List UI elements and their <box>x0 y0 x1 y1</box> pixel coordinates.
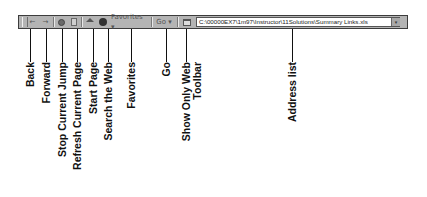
callout-favorites: Favorites <box>126 62 137 109</box>
back-button[interactable]: ← <box>28 17 37 27</box>
callout-back: Back <box>25 62 36 87</box>
callout-forward: Forward <box>41 62 52 103</box>
back-arrow-icon: ← <box>30 17 36 27</box>
address-input[interactable]: C:\00000EX7\1m97\Instructor\11Solutions\… <box>196 17 400 27</box>
leader-refresh <box>77 29 78 62</box>
leader-stop <box>62 29 63 62</box>
callout-show-only-web-line2: Toolbar <box>192 62 203 100</box>
leader-address-list <box>292 29 293 62</box>
stop-icon <box>58 19 65 26</box>
chevron-down-icon: ▾ <box>395 19 398 25</box>
refresh-icon <box>71 18 77 26</box>
callout-refresh: Refresh Current Page <box>72 62 83 170</box>
separator <box>151 17 153 27</box>
callout-stop: Stop Current Jump <box>57 62 68 157</box>
leader-forward <box>46 29 47 62</box>
home-icon <box>86 18 94 22</box>
start-page-button[interactable] <box>85 17 95 27</box>
web-toolbar: ← → Favorites ▾ Go ▾ C:\00000EX7\1m97\In… <box>18 15 408 29</box>
forward-button[interactable]: → <box>41 17 50 27</box>
leader-search <box>108 29 109 62</box>
callout-go: Go <box>161 62 172 77</box>
leader-back <box>30 29 31 62</box>
separator <box>81 17 83 27</box>
window-icon <box>183 19 191 26</box>
show-only-web-toolbar-button[interactable] <box>181 17 192 27</box>
leader-show-only-web <box>186 29 187 62</box>
address-dropdown-button[interactable]: ▾ <box>391 18 400 26</box>
leader-go <box>166 29 167 62</box>
callout-search: Search the Web <box>103 62 114 141</box>
stop-button[interactable] <box>57 17 66 27</box>
leader-start-page <box>93 29 94 62</box>
go-button[interactable]: Go ▾ <box>155 17 173 27</box>
search-web-button[interactable] <box>98 17 108 27</box>
favorites-button[interactable]: Favorites ▾ <box>111 17 147 27</box>
leader-favorites <box>131 29 132 62</box>
separator <box>53 17 55 27</box>
separator <box>177 17 179 27</box>
callout-start-page: Start Page <box>88 62 99 114</box>
search-globe-icon <box>99 18 107 26</box>
refresh-button[interactable] <box>69 17 78 27</box>
favorites-label: Favorites ▾ <box>111 12 147 32</box>
forward-arrow-icon: → <box>43 17 49 27</box>
go-label: Go ▾ <box>156 17 171 27</box>
callout-address-list: Address list <box>287 62 298 122</box>
